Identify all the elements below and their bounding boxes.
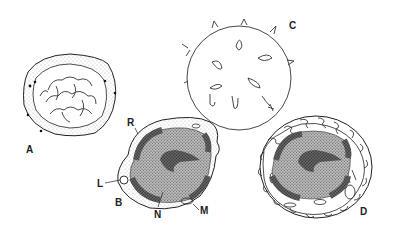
annotation-l: L <box>97 178 103 189</box>
diagram-canvas: A C R L B N M <box>0 0 394 234</box>
panel-c-cell <box>182 19 294 130</box>
panel-a-cell <box>24 54 117 136</box>
annotation-m: M <box>200 205 208 216</box>
panel-label-d: D <box>360 206 367 217</box>
panel-label-a: A <box>26 144 33 155</box>
panel-d-cell <box>258 116 372 218</box>
panel-label-c: C <box>289 20 296 31</box>
annotation-r: R <box>127 117 135 128</box>
panel-label-b: B <box>115 197 122 208</box>
annotation-n: N <box>154 209 161 220</box>
